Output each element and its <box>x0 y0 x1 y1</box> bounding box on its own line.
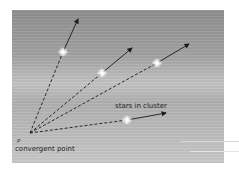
convergent-point-label: convergent point <box>15 145 75 153</box>
convergent-point-diagram <box>0 0 239 169</box>
proper-motion-arrow <box>127 113 166 120</box>
proper-motion-arrow <box>63 19 78 52</box>
stars-in-cluster-label: stars in cluster <box>115 102 167 110</box>
dashed-projection-line <box>30 73 102 133</box>
proper-motion-arrow <box>102 48 132 73</box>
point-p-label: P <box>17 138 20 144</box>
dashed-projection-line <box>30 120 127 133</box>
proper-motion-arrow <box>157 44 189 63</box>
dashed-projection-line <box>30 63 157 133</box>
dashed-projection-line <box>30 52 63 133</box>
